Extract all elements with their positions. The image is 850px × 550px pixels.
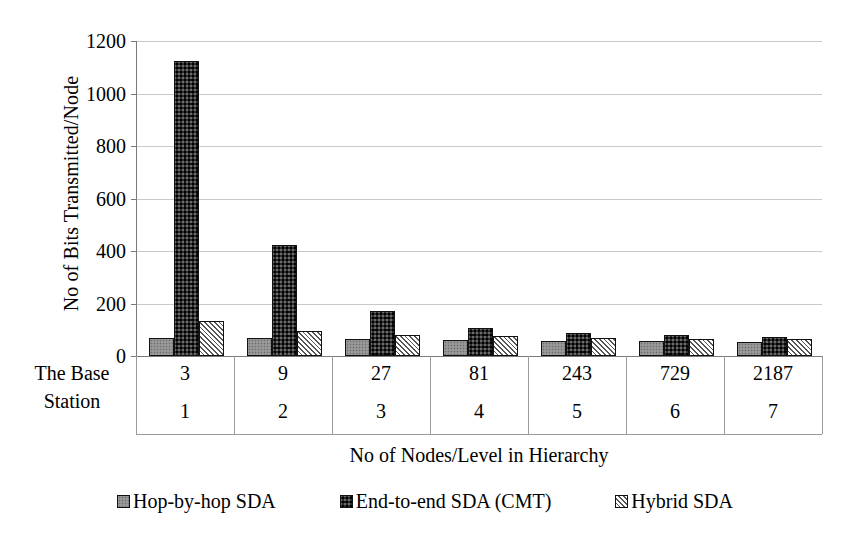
category-label-level: 6 — [626, 400, 724, 423]
bar — [762, 337, 787, 356]
bar-group-bars — [627, 41, 725, 356]
bar — [247, 338, 272, 356]
category-label-level: 3 — [332, 400, 430, 423]
legend-item[interactable]: End-to-end SDA (CMT) — [340, 490, 552, 513]
category-separator — [822, 356, 823, 434]
bar — [787, 339, 812, 356]
y-axis-tick-label: 1000 — [6, 82, 126, 105]
plot-area — [136, 41, 822, 356]
bar — [566, 333, 591, 356]
y-axis-tick-label: 200 — [6, 292, 126, 315]
legend-label: End-to-end SDA (CMT) — [356, 490, 552, 513]
y-axis-tick-label: 800 — [6, 135, 126, 158]
bar — [345, 339, 370, 356]
category-label-level: 7 — [724, 400, 822, 423]
base-station-label: The Base Station — [10, 360, 134, 415]
chart-legend: Hop-by-hop SDAEnd-to-end SDA (CMT)Hybrid… — [0, 490, 850, 513]
legend-item[interactable]: Hybrid SDA — [615, 490, 733, 513]
category-table-bottom-border — [136, 434, 822, 435]
category-label-nodes: 729 — [626, 362, 724, 385]
category-label-level: 1 — [136, 400, 234, 423]
category-label-level: 2 — [234, 400, 332, 423]
base-station-label-line1: The Base — [10, 360, 134, 388]
legend-label: Hybrid SDA — [631, 490, 733, 513]
legend-item[interactable]: Hop-by-hop SDA — [117, 490, 276, 513]
category-label-level: 5 — [528, 400, 626, 423]
base-station-label-line2: Station — [10, 388, 134, 416]
bar — [664, 335, 689, 356]
bar — [639, 341, 664, 356]
category-label-level: 4 — [430, 400, 528, 423]
legend-swatch-icon — [340, 495, 353, 508]
bar-group-bars — [137, 41, 235, 356]
bar — [297, 331, 322, 356]
bar-group — [137, 41, 235, 356]
bar-group — [627, 41, 725, 356]
bar — [370, 311, 395, 356]
bar — [174, 61, 199, 356]
bar-group — [431, 41, 529, 356]
bar-group-bars — [725, 41, 823, 356]
y-axis-tick-label: 400 — [6, 240, 126, 263]
x-axis-title: No of Nodes/Level in Hierarchy — [136, 444, 822, 467]
y-axis-tick-label: 1200 — [6, 30, 126, 53]
bar-group-bars — [333, 41, 431, 356]
bar-group — [235, 41, 333, 356]
bar — [591, 338, 616, 356]
y-axis-tick-label: 600 — [6, 187, 126, 210]
x-axis-baseline — [136, 356, 822, 357]
category-label-nodes: 9 — [234, 362, 332, 385]
bar — [443, 340, 468, 356]
bar-group-bars — [529, 41, 627, 356]
bar — [149, 338, 174, 356]
category-label-nodes: 27 — [332, 362, 430, 385]
bar-group — [529, 41, 627, 356]
legend-swatch-icon — [615, 495, 628, 508]
bar — [737, 342, 762, 356]
legend-label: Hop-by-hop SDA — [133, 490, 276, 513]
category-label-nodes: 243 — [528, 362, 626, 385]
bar-group-bars — [431, 41, 529, 356]
bar — [689, 339, 714, 356]
category-label-nodes: 81 — [430, 362, 528, 385]
bar — [493, 336, 518, 356]
bar — [541, 341, 566, 356]
category-label-nodes: 2187 — [724, 362, 822, 385]
chart-container: No of Bits Transmitted/Node 020040060080… — [0, 0, 850, 550]
bar — [395, 335, 420, 356]
bar — [468, 328, 493, 356]
bar-group — [333, 41, 431, 356]
bar — [199, 321, 224, 356]
bar — [272, 245, 297, 356]
category-label-nodes: 3 — [136, 362, 234, 385]
legend-swatch-icon — [117, 495, 130, 508]
bar-group — [725, 41, 823, 356]
bar-group-bars — [235, 41, 333, 356]
